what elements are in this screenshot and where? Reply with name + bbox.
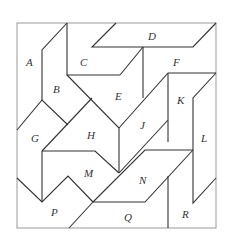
edge-b-h-g — [42, 98, 92, 151]
edge-g-p-m — [17, 176, 93, 202]
label-b: B — [53, 83, 60, 95]
label-a: A — [25, 56, 33, 68]
label-c: C — [80, 56, 88, 68]
label-n: N — [138, 174, 147, 186]
edge-a-g-b — [17, 100, 68, 130]
label-j: J — [140, 119, 146, 131]
label-e: E — [114, 90, 122, 102]
label-l: L — [200, 132, 207, 144]
edge-p-q — [69, 202, 93, 228]
label-r: R — [181, 208, 189, 220]
label-m: M — [83, 167, 94, 179]
label-h: H — [86, 129, 96, 141]
edge-b-c — [67, 23, 120, 75]
edge-h-m — [42, 151, 119, 173]
edge-b-e-h — [67, 75, 119, 173]
edge-c-d-diag — [120, 47, 143, 75]
label-d: D — [147, 30, 156, 42]
diagram-svg: A B C D E F G H J K L M N P Q R — [0, 0, 232, 245]
label-g: G — [31, 132, 39, 144]
tiling-diagram: A B C D E F G H J K L M N P Q R — [0, 0, 232, 245]
label-p: P — [50, 206, 58, 218]
label-q: Q — [124, 211, 132, 223]
label-k: K — [176, 94, 185, 106]
label-f: F — [172, 56, 180, 68]
